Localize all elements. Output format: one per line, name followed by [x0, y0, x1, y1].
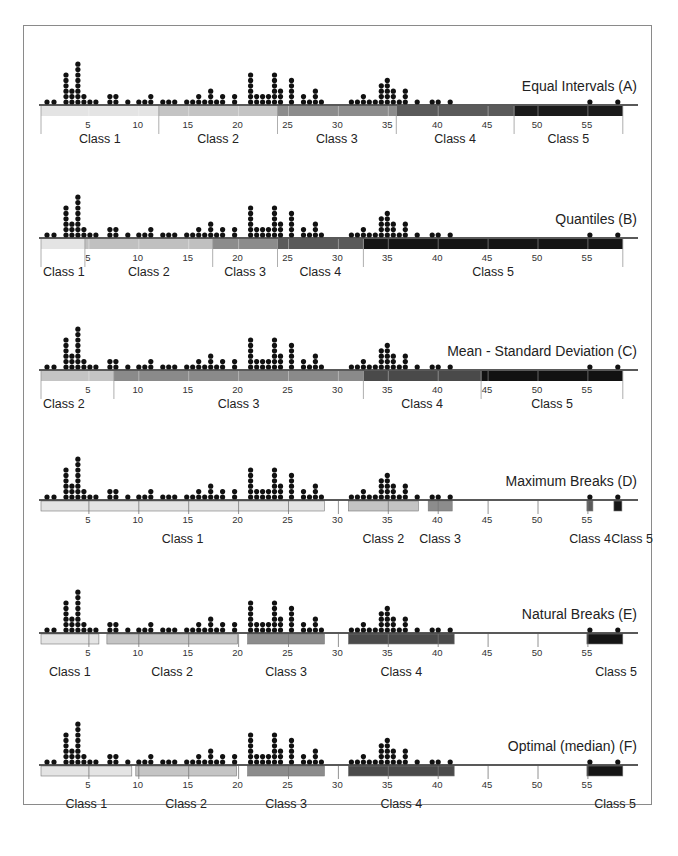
data-dot: [113, 94, 118, 99]
data-dot: [289, 478, 294, 483]
data-dot: [379, 494, 384, 499]
tick-label: 55: [582, 252, 593, 263]
data-dot: [307, 494, 312, 499]
data-dot: [69, 622, 74, 627]
data-dot: [313, 94, 318, 99]
data-dot: [107, 232, 112, 237]
data-dot: [248, 89, 253, 94]
data-dot: [289, 627, 294, 632]
data-dot: [391, 94, 396, 99]
data-dot: [220, 494, 225, 499]
data-dot: [107, 364, 112, 369]
data-dot: [69, 359, 74, 364]
class-label: Class 5: [611, 532, 653, 546]
data-dot: [391, 89, 396, 94]
data-dot: [367, 759, 372, 764]
data-dot: [160, 759, 165, 764]
data-dot: [254, 627, 259, 632]
data-dot: [260, 359, 265, 364]
data-dot: [142, 759, 147, 764]
data-dot: [397, 627, 402, 632]
tick-label: 10: [133, 384, 144, 395]
data-dot: [87, 494, 92, 499]
data-dot: [361, 94, 366, 99]
data-dot: [51, 759, 56, 764]
data-dot: [260, 759, 265, 764]
class-label: Class 4: [380, 797, 422, 811]
data-dot: [248, 227, 253, 232]
data-dot: [63, 617, 68, 622]
data-dot: [51, 232, 56, 237]
data-dot: [278, 754, 283, 759]
data-dot: [307, 759, 312, 764]
data-dot: [63, 211, 68, 216]
data-dot: [278, 759, 283, 764]
data-dot: [415, 364, 420, 369]
data-dot: [75, 216, 80, 221]
data-dot: [403, 749, 408, 754]
data-dot: [361, 754, 366, 759]
class-label: Class 2: [151, 665, 193, 679]
data-dot: [248, 489, 253, 494]
tick-label: 30: [332, 514, 343, 525]
data-dot: [208, 617, 213, 622]
data-dot: [361, 622, 366, 627]
data-dot: [44, 99, 49, 104]
class-bar-1: [41, 106, 159, 116]
data-dot: [232, 494, 237, 499]
data-dot: [272, 232, 277, 237]
data-dot: [87, 627, 92, 632]
data-dot: [63, 343, 68, 348]
data-dot: [313, 617, 318, 622]
tick-label: 40: [432, 384, 443, 395]
class-label: Class 5: [594, 797, 636, 811]
data-dot: [232, 364, 237, 369]
data-dot: [278, 622, 283, 627]
data-dot: [301, 622, 306, 627]
data-dot: [349, 494, 354, 499]
data-dot: [289, 89, 294, 94]
data-dot: [93, 494, 98, 499]
data-dot: [289, 484, 294, 489]
data-dot: [355, 627, 360, 632]
tick-label: 5: [85, 647, 90, 658]
tick-label: 35: [382, 119, 393, 130]
data-dot: [232, 99, 237, 104]
data-dot: [75, 354, 80, 359]
data-dot: [391, 759, 396, 764]
data-dot: [430, 99, 435, 104]
data-dot: [44, 494, 49, 499]
data-dot: [87, 364, 92, 369]
data-dot: [63, 600, 68, 605]
data-dot: [75, 759, 80, 764]
class-label: Class 3: [265, 797, 307, 811]
data-dot: [266, 627, 271, 632]
data-dot: [385, 759, 390, 764]
data-dot: [63, 467, 68, 472]
data-dot: [430, 232, 435, 237]
data-dot: [248, 759, 253, 764]
class-bar-2: [107, 634, 238, 644]
data-dot: [289, 359, 294, 364]
data-dot: [232, 227, 237, 232]
data-dot: [367, 364, 372, 369]
tick-label: 30: [332, 252, 343, 263]
data-dot: [301, 759, 306, 764]
data-dot: [266, 99, 271, 104]
tick-label: 10: [133, 252, 144, 263]
data-dot: [248, 467, 253, 472]
data-dot: [248, 743, 253, 748]
data-dot: [385, 738, 390, 743]
data-dot: [379, 364, 384, 369]
data-dot: [289, 94, 294, 99]
data-dot: [220, 627, 225, 632]
data-dot: [379, 99, 384, 104]
data-dot: [289, 617, 294, 622]
data-dot: [385, 354, 390, 359]
data-dot: [254, 754, 259, 759]
tick-label: 55: [582, 779, 593, 790]
data-dot: [51, 494, 56, 499]
data-dot: [75, 738, 80, 743]
data-dot: [208, 749, 213, 754]
data-dot: [391, 749, 396, 754]
